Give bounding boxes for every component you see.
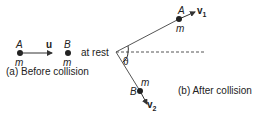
at-rest-label: at rest (81, 48, 109, 58)
caption-after: (b) After collision (178, 86, 252, 96)
ball-b-before (65, 50, 71, 56)
trajectory-a (116, 19, 179, 52)
ball-a-after (176, 16, 182, 22)
angle-theta-label: θ (123, 57, 129, 67)
ball-b-label-after: B (130, 87, 137, 97)
v2-subscript: 2 (153, 105, 157, 112)
ball-a-label-after: A (178, 6, 185, 16)
v1-label: v1 (197, 6, 206, 18)
ball-b-label-before: B (64, 40, 71, 50)
ball-b-after (137, 88, 143, 94)
ball-b-mass-after: m (141, 78, 149, 88)
ball-a-mass-after: m (176, 24, 184, 34)
caption-before: (a) Before collision (6, 67, 89, 77)
v1-subscript: 1 (203, 11, 207, 18)
v2-label: v2 (147, 100, 156, 112)
velocity-u-label: u (46, 40, 52, 50)
ball-a-label-before: A (16, 40, 23, 50)
